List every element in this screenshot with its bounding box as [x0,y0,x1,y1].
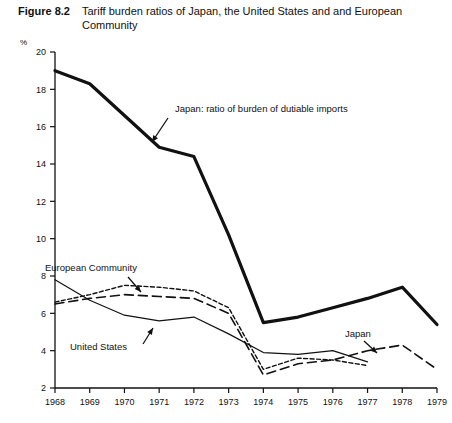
y-tick-group: 2468101214161820 [36,47,55,393]
annotation-arrowhead [147,328,153,335]
y-tick-label: 14 [36,159,46,169]
x-tick-label: 1974 [253,397,273,407]
x-tick-label: 1972 [184,397,204,407]
y-tick-label: 10 [36,234,46,244]
x-tick-label: 1978 [392,397,412,407]
y-tick-label: 12 [36,197,46,207]
series-annotation-label: Japan [345,328,371,339]
series-annotation-label: United States [70,341,127,352]
series-group [55,71,437,375]
y-tick-label: 2 [41,383,46,393]
x-tick-label: 1968 [45,397,65,407]
x-tick-label: 1975 [288,397,308,407]
y-tick-label: 6 [41,309,46,319]
y-tick-label: 20 [36,47,46,57]
annotation-group: Japan: ratio of burden of dutiable impor… [45,103,377,353]
x-tick-label: 1971 [149,397,169,407]
series-annotation-label: Japan: ratio of burden of dutiable impor… [175,103,348,114]
y-tick-label: 16 [36,122,46,132]
series-line [55,295,437,375]
series-line [55,285,368,369]
x-tick-label: 1973 [219,397,239,407]
x-tick-label: 1977 [358,397,378,407]
x-tick-group: 1968196919701971197219731974197519761977… [45,388,447,407]
x-tick-label: 1969 [80,397,100,407]
y-tick-label: 4 [41,346,46,356]
series-annotation-label: European Community [45,262,137,273]
annotation-arrowhead [152,135,158,142]
x-tick-label: 1979 [427,397,447,407]
y-tick-label: 18 [36,85,46,95]
x-tick-label: 1970 [114,397,134,407]
x-tick-label: 1976 [323,397,343,407]
figure-container: Figure 8.2 Tariff burden ratios of Japan… [0,0,452,423]
chart-plot: 2468101214161820 19681969197019711972197… [0,0,452,423]
